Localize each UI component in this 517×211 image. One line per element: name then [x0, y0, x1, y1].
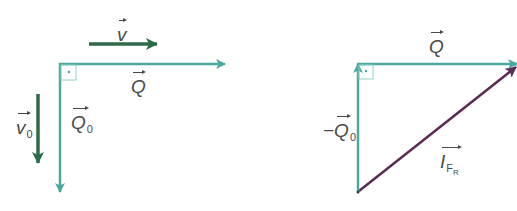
right-diagram	[357, 64, 517, 194]
ifr-sub-r: R	[453, 168, 459, 177]
v0-label: v0	[16, 118, 33, 137]
right-angle-dot	[68, 71, 70, 73]
q-label-right-text: Q	[429, 36, 444, 57]
ifr-label-subscript: FR	[446, 162, 459, 174]
q0-label: Q0	[71, 113, 93, 132]
vector-arrow-icon	[131, 70, 146, 76]
q-label-left-text: Q	[131, 76, 146, 97]
ifr-label-main: I	[440, 151, 445, 172]
neg-q0-label: −Q0	[323, 121, 356, 140]
left-diagram	[38, 44, 225, 192]
q0-label-subscript: 0	[87, 123, 93, 135]
ifr-label: IFR	[440, 152, 459, 171]
vector-arrow-icon	[16, 111, 31, 117]
q-label-left: Q	[131, 77, 146, 96]
v0-label-main: v	[16, 117, 26, 138]
neg-q0-label-main: −Q	[323, 120, 349, 141]
q-label-right: Q	[429, 37, 444, 56]
origin-point	[357, 191, 360, 194]
q0-label-main: Q	[71, 112, 86, 133]
ifr-vector-arrow	[359, 67, 516, 191]
vector-arrow-icon	[335, 114, 351, 120]
vector-arrow-icon	[71, 106, 89, 112]
ifr-sub-f: F	[446, 162, 453, 174]
right-angle-dot-right	[365, 70, 367, 72]
vector-arrow-icon	[429, 30, 444, 36]
neg-q0-label-subscript: 0	[350, 131, 356, 143]
vector-arrow-icon	[117, 18, 127, 24]
v-label: v	[117, 25, 127, 44]
v0-label-subscript: 0	[27, 128, 33, 140]
v-label-text: v	[117, 24, 127, 45]
vector-arrow-icon	[440, 145, 462, 151]
